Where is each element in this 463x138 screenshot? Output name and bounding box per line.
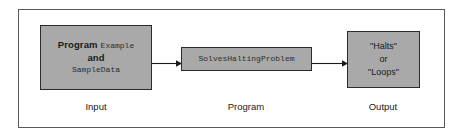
caption-program: Program <box>206 101 286 112</box>
input-box: Program Example and SampleData <box>40 25 152 90</box>
program-box-value: SolvesHaltingProblem <box>198 53 294 65</box>
input-program-row: Program Example <box>58 39 134 52</box>
output-line-loops: "Loops" <box>368 66 399 79</box>
arrow-right-icon-program-to-output <box>312 54 348 63</box>
arrow-right-icon-input-to-program <box>152 54 182 63</box>
halting-problem-diagram: Program Example and SampleData SolvesHal… <box>0 0 463 138</box>
input-program-value: Example <box>101 40 135 52</box>
caption-input: Input <box>56 101 136 112</box>
input-data-value: SampleData <box>72 64 120 76</box>
output-line-or: or <box>379 53 387 66</box>
program-box: SolvesHaltingProblem <box>181 47 312 71</box>
output-box: "Halts" or "Loops" <box>347 31 420 88</box>
caption-output: Output <box>343 101 423 112</box>
output-line-halts: "Halts" <box>370 40 397 53</box>
input-program-label: Program <box>58 39 98 51</box>
input-conjunction: and <box>87 52 104 64</box>
